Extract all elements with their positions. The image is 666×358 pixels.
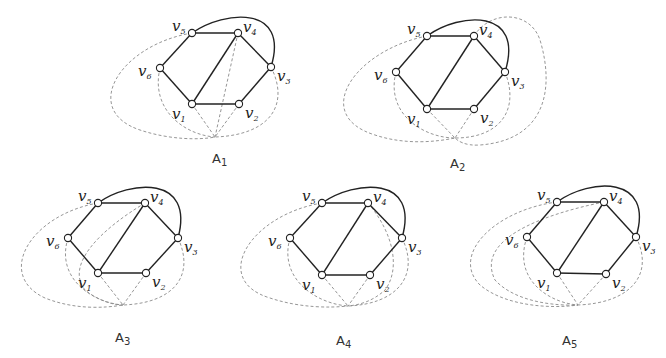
vertex-v4 <box>600 198 607 205</box>
edge-v5-v6 <box>68 203 98 238</box>
vertex-label-v2: v2 <box>376 275 390 294</box>
vertex-label-v5: v5 <box>537 186 551 205</box>
edge-v3-v4 <box>238 33 271 67</box>
vertex-v5 <box>94 199 101 206</box>
vertex-label-v5: v5 <box>407 20 421 39</box>
dashed-edge <box>557 273 578 305</box>
vertex-v6 <box>156 64 163 71</box>
dashed-edge <box>241 203 348 307</box>
vertex-label-v2: v2 <box>612 274 626 293</box>
edge-v2-v3 <box>146 238 178 273</box>
vertex-v3 <box>501 68 508 75</box>
vertex-v1 <box>423 105 430 112</box>
vertex-label-v4: v4 <box>609 187 623 206</box>
panel-a4: v1v2v3v4v5v6A4 <box>241 187 422 350</box>
dashed-edge <box>21 203 123 307</box>
vertex-v5 <box>318 199 325 206</box>
vertex-label-v2: v2 <box>245 104 259 123</box>
vertex-label-v6: v6 <box>46 232 60 251</box>
edge-v3-v4 <box>474 36 505 72</box>
dashed-edge <box>344 36 455 142</box>
edge-v1-v4 <box>427 36 474 109</box>
vertex-v3 <box>174 234 181 241</box>
vertex-label-v4: v4 <box>150 188 164 207</box>
vertex-label-v3: v3 <box>277 67 291 86</box>
edge-v3-v4 <box>368 203 402 238</box>
vertex-label-v5: v5 <box>302 187 316 206</box>
vertex-label-v6: v6 <box>505 231 519 250</box>
vertex-label-v6: v6 <box>138 62 152 81</box>
edge-v6-v1 <box>396 72 427 109</box>
vertex-v2 <box>602 270 609 277</box>
edge-v2-v3 <box>370 238 402 275</box>
vertex-v6 <box>523 233 530 240</box>
vertex-v4 <box>364 199 371 206</box>
vertex-label-v1: v1 <box>78 274 92 293</box>
dashed-edge <box>192 104 215 137</box>
caption-a4: A4 <box>336 333 351 350</box>
graph-figure: v1v2v3v4v5v6A1v1v2v3v4v5v6A2v1v2v3v4v5v6… <box>0 0 666 358</box>
vertex-v3 <box>632 233 639 240</box>
edge-v5-v6 <box>290 203 322 238</box>
edge-v1-v4 <box>192 33 238 104</box>
caption-a3: A3 <box>115 330 130 347</box>
vertex-label-v5: v5 <box>172 17 186 36</box>
vertex-label-v4: v4 <box>373 188 387 207</box>
vertex-label-v4: v4 <box>243 18 257 37</box>
dashed-edge <box>123 273 146 305</box>
edge-v2-v3 <box>474 72 505 109</box>
edge-v6-v1 <box>290 238 322 275</box>
dashed-edge <box>111 33 215 139</box>
vertex-label-v6: v6 <box>374 66 388 85</box>
edge-v1-v2 <box>557 273 606 274</box>
edge-v1-v4 <box>557 202 604 273</box>
panel-a3: v1v2v3v4v5v6A3 <box>21 187 197 347</box>
vertex-v6 <box>286 234 293 241</box>
edge-v1-v4 <box>98 203 145 273</box>
vertex-v4 <box>470 32 477 39</box>
vertex-v5 <box>553 198 560 205</box>
edge-v5-v6 <box>160 33 192 68</box>
panel-a2: v1v2v3v4v5v6A2 <box>344 17 547 173</box>
vertex-v4 <box>234 29 241 36</box>
dashed-edge <box>470 202 578 307</box>
vertex-v2 <box>366 271 373 278</box>
edge-v5-v6 <box>527 202 557 237</box>
edge-v2-v3 <box>239 67 271 104</box>
vertex-label-v2: v2 <box>480 109 494 128</box>
vertex-v3 <box>398 234 405 241</box>
caption-a5: A5 <box>562 333 577 350</box>
caption-a2: A2 <box>450 156 465 173</box>
panel-a5: v1v2v3v4v5v6A5 <box>470 186 655 350</box>
vertex-label-v5: v5 <box>78 187 92 206</box>
vertex-label-v3: v3 <box>642 237 656 256</box>
panel-a1: v1v2v3v4v5v6A1 <box>111 17 291 168</box>
vertex-label-v3: v3 <box>184 238 198 257</box>
dashed-edge <box>215 67 278 137</box>
dashed-edge <box>578 274 606 305</box>
vertex-v1 <box>318 271 325 278</box>
edge-v5-v6 <box>396 36 427 72</box>
vertex-v2 <box>470 105 477 112</box>
vertex-label-v1: v1 <box>407 110 421 129</box>
caption-a1: A1 <box>212 151 227 168</box>
vertex-v2 <box>235 100 242 107</box>
dashed-edge <box>524 237 578 305</box>
dashed-edge <box>123 238 184 305</box>
solid-arc-v5-v3 <box>192 17 274 67</box>
vertex-v5 <box>423 32 430 39</box>
vertex-label-v3: v3 <box>408 238 422 257</box>
vertex-v3 <box>267 63 274 70</box>
edge-v1-v4 <box>322 203 368 275</box>
vertex-label-v2: v2 <box>152 273 166 292</box>
edge-v2-v3 <box>606 237 636 274</box>
vertex-v1 <box>94 269 101 276</box>
vertex-v6 <box>392 68 399 75</box>
dashed-edge <box>455 109 474 138</box>
vertex-label-v4: v4 <box>479 21 493 40</box>
vertex-v2 <box>142 269 149 276</box>
vertex-v5 <box>188 29 195 36</box>
vertex-label-v3: v3 <box>511 72 525 91</box>
vertex-v1 <box>553 269 560 276</box>
edge-v6-v1 <box>527 237 557 273</box>
